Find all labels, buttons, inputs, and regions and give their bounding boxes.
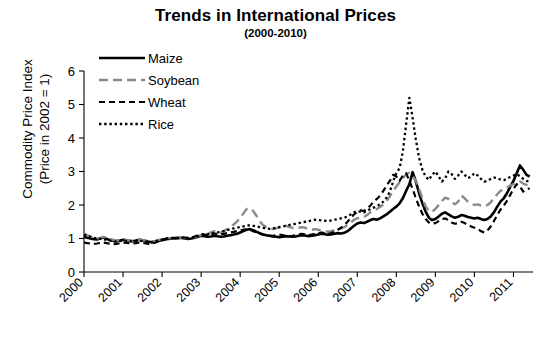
x-tick-label: 2004: [213, 275, 243, 305]
y-axis-ticks: 0123456: [68, 64, 84, 280]
x-tick-label: 2001: [96, 275, 126, 305]
series-line-soybean: [84, 173, 530, 242]
x-tick-label: 2008: [369, 275, 399, 305]
legend-label-soybean: Soybean: [148, 73, 199, 88]
series-line-maize: [84, 165, 530, 242]
legend-label-rice: Rice: [148, 117, 174, 132]
x-tick-label: 2005: [252, 275, 282, 305]
x-tick-label: 2000: [57, 275, 87, 305]
legend-label-maize: Maize: [148, 51, 183, 66]
x-tick-label: 2011: [487, 275, 516, 304]
legend-label-wheat: Wheat: [148, 95, 186, 110]
y-tick-label: 4: [68, 131, 75, 146]
chart-legend: MaizeSoybeanWheatRice: [99, 51, 199, 132]
x-tick-label: 2003: [174, 275, 204, 305]
y-tick-label: 6: [68, 64, 75, 79]
x-tick-label: 2010: [447, 275, 477, 305]
y-tick-label: 2: [68, 198, 75, 213]
chart-figure: Trends in International Prices (2000-201…: [0, 0, 551, 338]
x-tick-label: 2007: [330, 275, 360, 305]
y-tick-label: 5: [68, 97, 75, 112]
y-tick-label: 3: [68, 164, 75, 179]
x-axis-ticks: 2000200120022003200420052006200720082009…: [57, 272, 516, 305]
chart-plot-area: 0123456 20002001200220032004200520062007…: [0, 0, 551, 338]
y-tick-label: 1: [68, 231, 75, 246]
series-line-wheat: [84, 173, 530, 244]
x-tick-label: 2006: [291, 275, 321, 305]
x-tick-label: 2002: [135, 275, 165, 305]
x-tick-label: 2009: [408, 275, 438, 305]
